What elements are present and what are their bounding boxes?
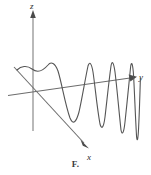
chirp-curve-path <box>17 63 140 140</box>
y-axis: y <box>8 72 143 96</box>
figure-container: z y x F. <box>0 0 151 175</box>
z-axis: z <box>29 1 36 131</box>
chirp-curve <box>17 63 140 140</box>
figure-caption: F. <box>0 159 151 169</box>
x-axis-line <box>14 67 84 143</box>
coordinate-system-plot: z y x <box>0 0 151 175</box>
z-axis-label: z <box>29 1 34 11</box>
z-axis-arrowhead <box>30 10 36 18</box>
x-axis: x <box>14 67 91 162</box>
